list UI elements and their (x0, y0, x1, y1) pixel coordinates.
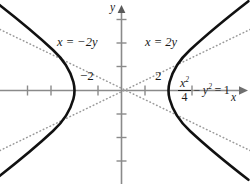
equation-right-hand-side: 1 (224, 84, 230, 96)
x-tick-label-positive-two: 2 (155, 69, 162, 82)
equation-numerator: x2 (178, 76, 191, 90)
hyperbola-figure: y x x = −2y x = 2y −2 2 x2 4 − y2 = 1 (0, 0, 250, 184)
y-axis-label: y (110, 2, 115, 14)
equation-minus-sign: − (194, 84, 201, 96)
asymptote-right-label: x = 2y (145, 36, 177, 49)
equation-denominator: 4 (180, 91, 190, 104)
x-axis-label: x (231, 92, 236, 104)
hyperbola-equation: x2 4 − y2 = 1 (178, 76, 230, 103)
x-axis-arrowhead (239, 86, 248, 94)
equation-second-term: y2 (203, 83, 212, 96)
equation-equals-sign: = (214, 84, 221, 96)
asymptote-left-label: x = −2y (57, 36, 97, 49)
equation-fraction: x2 4 (178, 76, 191, 103)
y-axis-arrowhead (118, 5, 126, 13)
x-tick-label-negative-two: −2 (80, 69, 94, 82)
